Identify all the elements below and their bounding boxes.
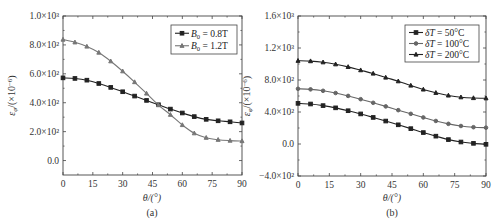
x-tick-label: 0	[296, 180, 301, 190]
triangle-marker-icon	[459, 95, 463, 99]
circle-marker-icon	[359, 97, 363, 101]
square-marker-icon	[228, 120, 232, 124]
square-marker-icon	[484, 143, 488, 147]
square-marker-icon	[73, 77, 77, 81]
square-marker-icon	[359, 112, 363, 116]
x-axis-label-b: θ/(°)	[383, 192, 402, 204]
y-tick-label: 0.0	[47, 156, 59, 166]
y-tick-label: 2.0×10²	[29, 127, 59, 137]
series-1	[61, 76, 244, 125]
circle-marker-icon	[296, 87, 300, 91]
square-marker-icon	[409, 127, 413, 131]
square-marker-icon	[216, 119, 220, 123]
legend-square-icon	[180, 31, 184, 35]
square-marker-icon	[240, 121, 244, 125]
square-marker-icon	[97, 82, 101, 86]
square-marker-icon	[85, 78, 89, 82]
y-tick-label: 8.0×10²	[29, 40, 59, 50]
triangle-marker-icon	[216, 138, 220, 142]
square-marker-icon	[396, 123, 400, 127]
triangle-marker-icon	[61, 37, 65, 41]
x-axis-label-a: θ/(°)	[143, 192, 162, 204]
legend-label: B0 = 0.8T	[191, 29, 228, 40]
square-marker-icon	[334, 106, 338, 110]
x-tick-label: 60	[178, 179, 188, 189]
square-marker-icon	[296, 102, 300, 106]
y-tick-label: 6.0×10²	[29, 69, 59, 79]
series-line	[63, 78, 242, 123]
square-marker-icon	[145, 99, 149, 103]
figure: 01530456075900.02.0×10²4.0×10²6.0×10²8.0…	[0, 0, 499, 224]
triangle-marker-icon	[204, 136, 208, 140]
triangle-marker-icon	[296, 59, 300, 63]
y-axis-label: εφ/(×10−6)	[241, 76, 254, 116]
y-tick-label: 8.0×10²	[264, 75, 294, 85]
square-marker-icon	[121, 90, 125, 94]
circle-marker-icon	[447, 122, 451, 126]
panel-a-caption: (a)	[146, 207, 157, 219]
series-line	[298, 89, 486, 128]
triangle-marker-icon	[409, 83, 413, 87]
chart-panel-b: 0153045607590−4.0×10²0.04.0×10²8.0×10²1.…	[241, 11, 491, 190]
x-tick-label: 90	[237, 179, 247, 189]
square-marker-icon	[109, 86, 113, 90]
x-tick-label: 90	[481, 180, 491, 190]
triangle-marker-icon	[396, 79, 400, 83]
square-marker-icon	[309, 102, 313, 106]
y-tick-label: 1.6×10³	[264, 11, 294, 21]
legend-square-icon	[414, 31, 418, 35]
triangle-marker-icon	[240, 139, 244, 143]
triangle-marker-icon	[434, 91, 438, 95]
triangle-marker-icon	[334, 62, 338, 66]
square-marker-icon	[181, 111, 185, 115]
triangle-marker-icon	[446, 93, 450, 97]
legend: δT = 50°CδT = 100°CδT = 200°C	[405, 25, 479, 62]
circle-marker-icon	[396, 108, 400, 112]
x-tick-label: 15	[88, 179, 98, 189]
circle-marker-icon	[422, 116, 426, 120]
square-marker-icon	[472, 142, 476, 146]
circle-marker-icon	[472, 125, 476, 129]
circle-marker-icon	[309, 88, 313, 92]
x-tick-label: 30	[356, 180, 366, 190]
square-marker-icon	[447, 138, 451, 142]
legend-label: δT = 50°C	[425, 28, 464, 38]
triangle-marker-icon	[321, 60, 325, 64]
panel-b-caption: (b)	[386, 207, 398, 219]
x-tick-label: 45	[148, 179, 158, 189]
square-marker-icon	[204, 118, 208, 122]
square-marker-icon	[192, 115, 196, 119]
series-line	[298, 103, 486, 144]
square-marker-icon	[371, 116, 375, 120]
triangle-marker-icon	[73, 40, 77, 44]
y-tick-label: 4.0×10²	[264, 107, 294, 117]
square-marker-icon	[384, 119, 388, 123]
triangle-marker-icon	[309, 59, 313, 63]
x-tick-label: 60	[419, 180, 429, 190]
legend-circle-icon	[414, 42, 418, 46]
legend-label: B0 = 1.2T	[191, 41, 228, 52]
y-tick-label: 4.0×10²	[29, 98, 59, 108]
square-marker-icon	[133, 94, 137, 98]
square-marker-icon	[321, 104, 325, 108]
legend-label: δT = 200°C	[425, 50, 469, 60]
triangle-marker-icon	[371, 71, 375, 75]
square-marker-icon	[169, 107, 173, 111]
circle-marker-icon	[384, 105, 388, 109]
circle-marker-icon	[321, 89, 325, 93]
square-marker-icon	[459, 140, 463, 144]
x-tick-label: 75	[450, 180, 460, 190]
legend-label: δT = 100°C	[425, 39, 469, 49]
circle-marker-icon	[346, 94, 350, 98]
circle-marker-icon	[334, 91, 338, 95]
series-3	[296, 59, 488, 100]
x-tick-label: 75	[207, 179, 217, 189]
x-tick-label: 0	[61, 179, 66, 189]
triangle-marker-icon	[85, 44, 89, 48]
triangle-marker-icon	[97, 50, 101, 54]
circle-marker-icon	[459, 124, 463, 128]
triangle-marker-icon	[384, 75, 388, 79]
series-line	[298, 61, 486, 99]
circle-marker-icon	[409, 112, 413, 116]
y-axis-label: εφ/(×10−6)	[6, 75, 19, 115]
